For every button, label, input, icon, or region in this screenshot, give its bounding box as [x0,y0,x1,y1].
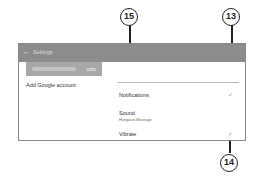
callout-13: 13 [222,8,240,26]
sound-value: Hangouts Message [119,118,152,122]
account-domain: com [87,66,96,72]
callout-14: 14 [220,154,238,172]
divider [117,82,239,83]
callout-15: 15 [120,8,138,26]
app-header: ← Settings [19,44,245,62]
account-email-blurred [32,67,76,71]
add-google-account[interactable]: Add Google account [26,82,76,88]
notifications-label[interactable]: Notifications [119,92,149,98]
vibrate-checkbox[interactable]: ✓ [228,130,233,137]
back-arrow-icon[interactable]: ← [23,48,30,55]
account-item[interactable]: com [26,62,102,76]
vibrate-label[interactable]: Vibrate [119,131,136,137]
sound-label[interactable]: Sound [119,110,135,116]
notifications-checkbox[interactable]: ✓ [228,91,233,98]
header-title: Settings [33,49,53,55]
settings-window: ← Settings com Add Google account Notifi… [18,43,246,141]
